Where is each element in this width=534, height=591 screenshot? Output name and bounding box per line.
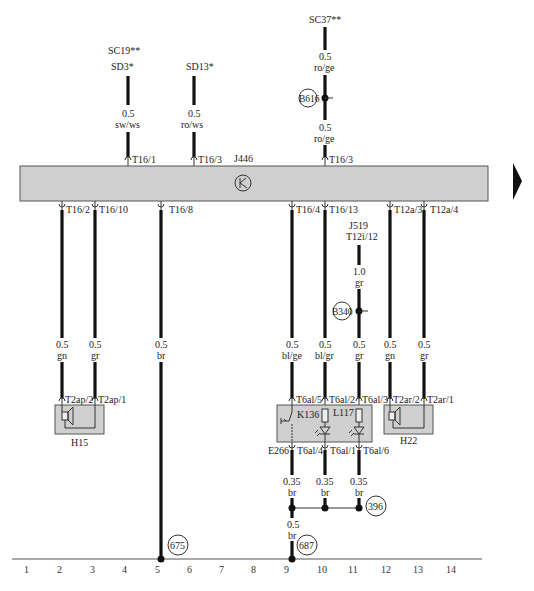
input-wire-sd13: SD13* 0.5 ro/ws T16/3 — [181, 61, 222, 166]
pin-label: T16/1 — [132, 154, 156, 165]
color-label: ro/ge — [314, 62, 335, 73]
gauge-label: 0.35 — [283, 476, 301, 487]
figure-caption-clipped — [140, 584, 400, 591]
pin-label: T6al/5 — [296, 394, 322, 405]
color-label: bl/gr — [315, 350, 335, 361]
color-label: br — [321, 487, 330, 498]
color-label: br — [288, 487, 297, 498]
gauge-label: 0.5 — [319, 122, 332, 133]
input-wire-sd3: SC19** SD3* 0.5 sw/ws T16/1 — [108, 45, 156, 166]
color-label: ro/ws — [181, 119, 203, 130]
color-label: gr — [91, 350, 100, 361]
junction-label: B340 — [332, 307, 353, 317]
svg-text:8: 8 — [251, 564, 256, 575]
color-label: gr — [355, 277, 364, 288]
svg-text:2: 2 — [57, 564, 62, 575]
svg-text:6: 6 — [187, 564, 192, 575]
pin-label: T6al/6 — [363, 445, 389, 456]
svg-text:4: 4 — [122, 564, 127, 575]
color-label: gr — [420, 350, 429, 361]
svg-text:5: 5 — [155, 564, 160, 575]
gauge-label: 0.5 — [122, 108, 135, 119]
svg-text:14: 14 — [446, 564, 456, 575]
input-wire-sc37: SC37** 0.5 ro/ge B616 0.5 ro/ge T16/3 — [299, 14, 353, 166]
switch-label: K136 — [297, 409, 319, 420]
speaker-h15: T2ap/2 T2ap/1 H15 — [55, 394, 126, 448]
gauge-label: 0.5 — [384, 339, 397, 350]
gauge-label: 0.35 — [350, 476, 368, 487]
svg-text:1: 1 — [24, 564, 29, 575]
pin-label: T2ap/1 — [98, 394, 126, 405]
svg-text:9: 9 — [284, 564, 289, 575]
gauge-label: 0.5 — [155, 339, 168, 350]
svg-text:T16/10: T16/10 — [99, 204, 128, 215]
grid-numbers: 1 2 3 4 5 6 7 8 9 10 11 12 13 14 — [24, 564, 456, 575]
source-label-sd13: SD13* — [186, 61, 214, 72]
pin-label: T16/3 — [329, 154, 353, 165]
gauge-label: 0.5 — [287, 519, 300, 530]
bottom-pins: T16/2 T16/10 T16/8 T16/4 T16/13 T12a/3 T… — [59, 201, 458, 215]
pin-t16-13: T16/13 — [322, 201, 358, 215]
svg-text:11: 11 — [348, 564, 358, 575]
pin-label: T6al/2 — [329, 394, 355, 405]
color-label: sw/ws — [115, 119, 140, 130]
svg-text:12: 12 — [381, 564, 391, 575]
gauge-label: 0.5 — [188, 108, 201, 119]
svg-text:T16/8: T16/8 — [169, 204, 193, 215]
pin-t16-8: T16/8 — [158, 201, 193, 215]
color-label: gr — [355, 350, 364, 361]
pin-label: T2ar/2 — [393, 394, 420, 405]
button-label: E266 — [268, 445, 289, 456]
pin-label: T2ap/2 — [65, 394, 93, 405]
lamp-label: L117 — [333, 407, 354, 418]
svg-text:13: 13 — [413, 564, 423, 575]
wiring-diagram: SC19** SD3* 0.5 sw/ws T16/1 SD13* 0.5 ro… — [0, 0, 534, 591]
color-label: br — [157, 350, 166, 361]
pin-label: T2ar/1 — [427, 394, 454, 405]
svg-text:T12a/4: T12a/4 — [430, 204, 458, 215]
gauge-label: 0.5 — [319, 51, 332, 62]
component-label: H15 — [71, 437, 88, 448]
pin-t12a-4: T12a/4 — [421, 201, 458, 215]
pin-t16-2: T16/2 — [59, 201, 90, 215]
j519-label: J519 — [349, 220, 368, 231]
triangle-right-icon[interactable] — [513, 163, 522, 200]
gauge-label: 0.5 — [56, 339, 69, 350]
color-label: bl/ge — [282, 350, 303, 361]
module-k136-l117: T6al/5 T6al/2 T6al/3 K136 L117 — [268, 394, 389, 456]
source-label-sc19: SC19** — [108, 45, 140, 56]
control-unit-j446 — [20, 166, 488, 201]
pin-label: T6al/4 — [297, 445, 323, 456]
source-label-sc37: SC37** — [309, 14, 341, 25]
gauge-label: 0.5 — [286, 339, 299, 350]
color-label: gn — [57, 350, 67, 361]
color-label: gn — [385, 350, 395, 361]
junction-label: B616 — [299, 94, 320, 104]
pin-label: T6al/1 — [330, 445, 356, 456]
pin-t16-10: T16/10 — [92, 201, 128, 215]
svg-text:T16/2: T16/2 — [66, 204, 90, 215]
svg-text:T12a/3: T12a/3 — [394, 204, 422, 215]
pin-label: T16/3 — [198, 154, 222, 165]
speaker-h22: T2ar/2 T2ar/1 H22 — [384, 394, 454, 446]
gauge-label: 0.5 — [353, 339, 366, 350]
pin-t16-4: T16/4 — [289, 201, 320, 215]
pin-t12a-3: T12a/3 — [387, 201, 422, 215]
gauge-label: 1.0 — [353, 266, 366, 277]
color-label: ro/ge — [314, 133, 335, 144]
ground-label: 675 — [170, 540, 185, 551]
svg-text:7: 7 — [219, 564, 224, 575]
svg-text:3: 3 — [90, 564, 95, 575]
color-label: br — [288, 530, 297, 541]
svg-text:T16/13: T16/13 — [329, 204, 358, 215]
source-label-sd3: SD3* — [111, 61, 134, 72]
junction-label: 396 — [368, 501, 383, 512]
color-label: br — [355, 487, 364, 498]
gauge-label: 0.35 — [316, 476, 334, 487]
control-unit-label: J446 — [234, 153, 253, 164]
gauge-label: 0.5 — [89, 339, 102, 350]
svg-text:T16/4: T16/4 — [296, 204, 320, 215]
component-label: H22 — [400, 435, 417, 446]
pin-label: T6al/3 — [362, 394, 388, 405]
ground-label: 687 — [299, 540, 314, 551]
